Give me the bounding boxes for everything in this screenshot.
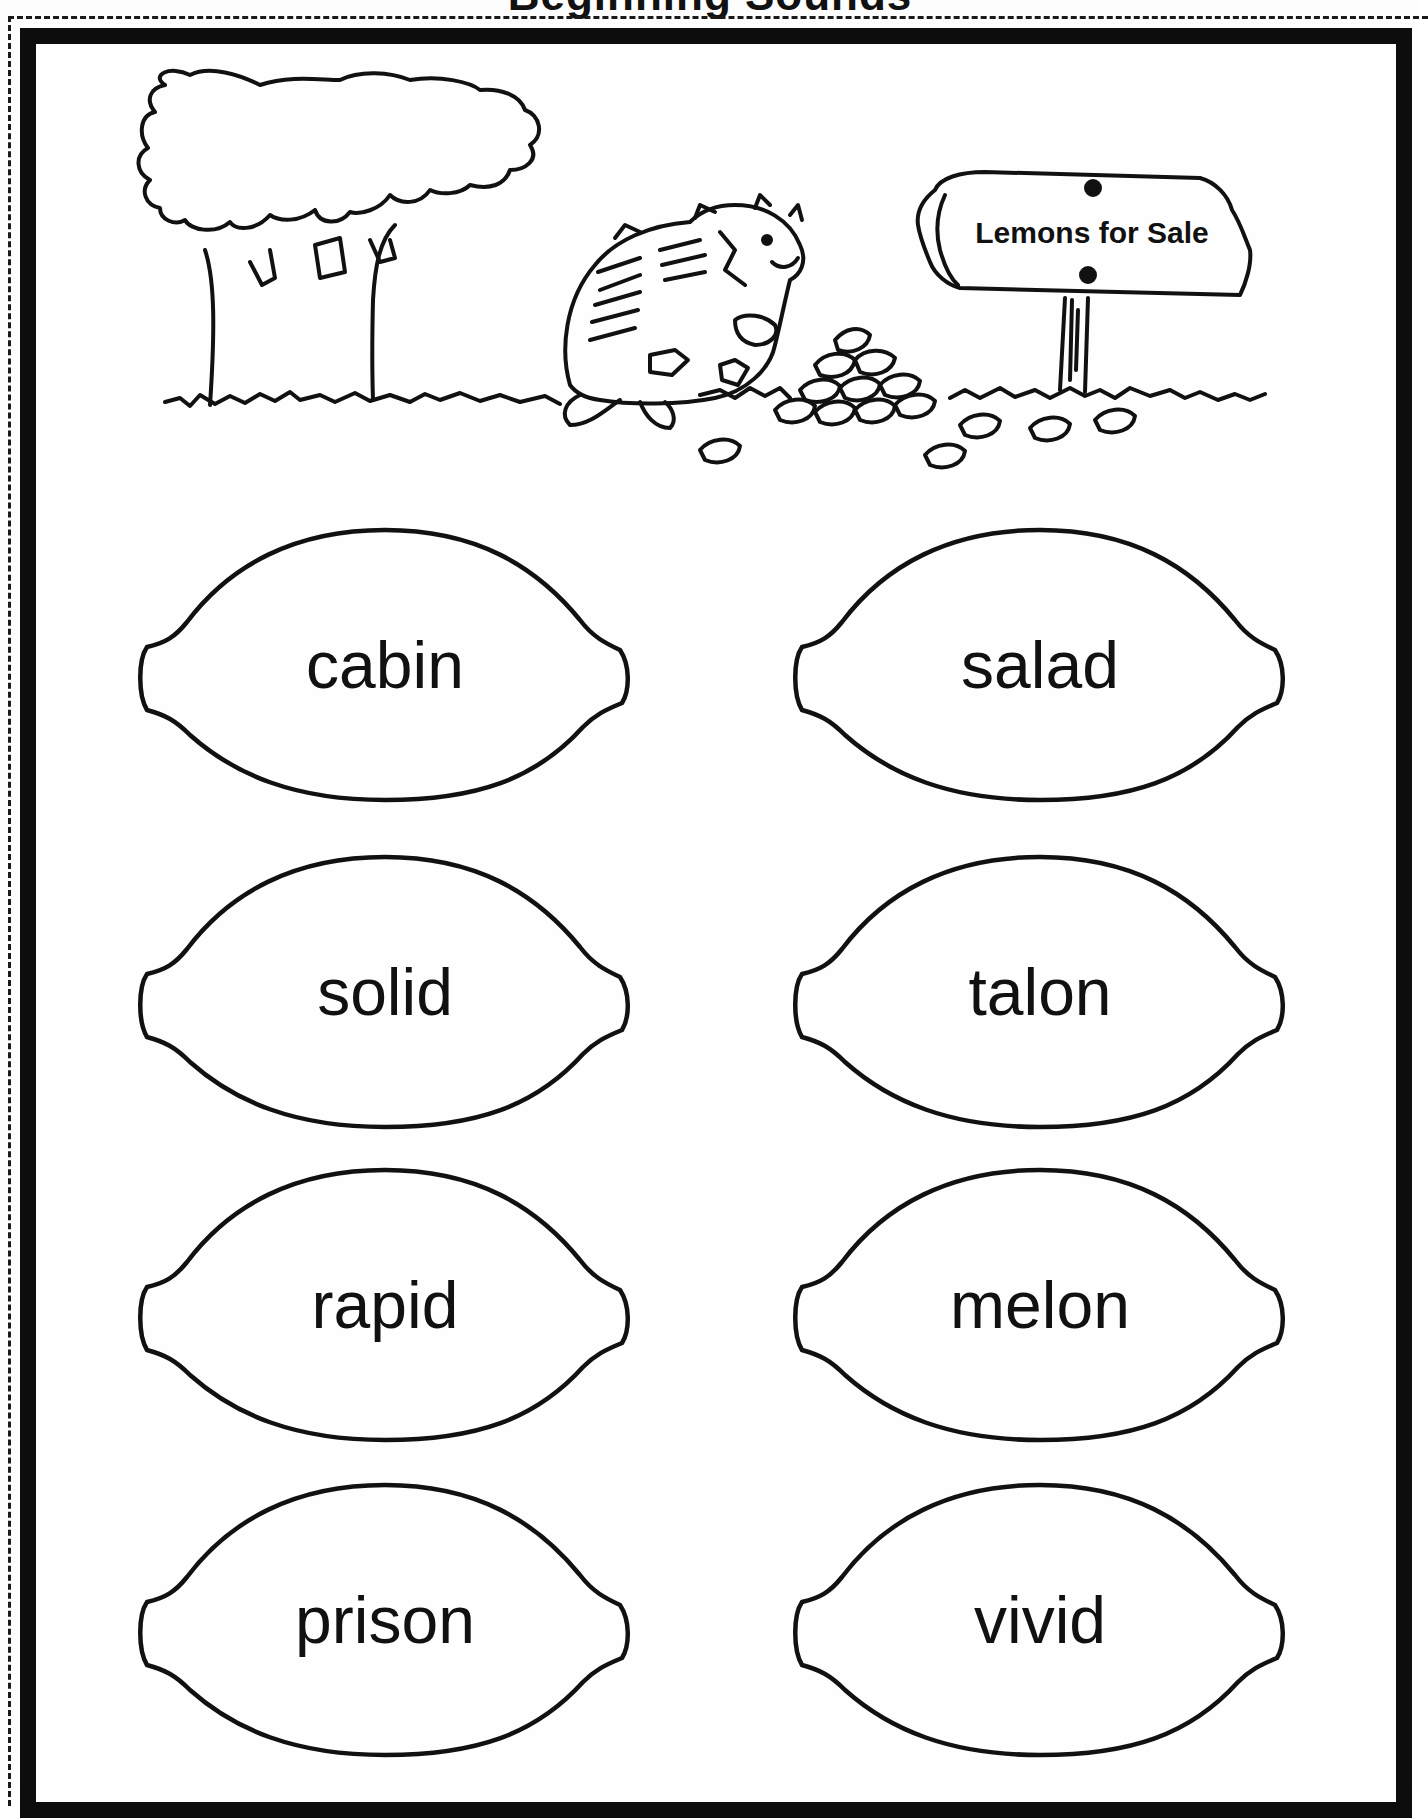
lemon-word: talon: [790, 852, 1290, 1132]
grass-line: [165, 392, 560, 406]
lemon-word: prison: [135, 1480, 635, 1760]
sign-icon: [918, 172, 1251, 392]
lemon-word: melon: [790, 1165, 1290, 1445]
lemon-word: solid: [135, 852, 635, 1132]
lemon-word: rapid: [135, 1165, 635, 1445]
lemon-card-prison: prison: [135, 1480, 635, 1760]
lemon-card-vivid: vivid: [790, 1480, 1290, 1760]
lemon-card-melon: melon: [790, 1165, 1290, 1445]
sign-text: Lemons for Sale: [975, 216, 1208, 249]
lemon-card-salad: salad: [790, 525, 1290, 805]
lemon-card-rapid: rapid: [135, 1165, 635, 1445]
lemon-card-cabin: cabin: [135, 525, 635, 805]
lemon-card-solid: solid: [135, 852, 635, 1132]
illustration-scene: Lemons for Sale: [0, 0, 1420, 500]
lemon-word: vivid: [790, 1480, 1290, 1760]
lemon-word: salad: [790, 525, 1290, 805]
tree-icon: [138, 71, 539, 405]
lemon-card-talon: talon: [790, 852, 1290, 1132]
lemon-word: cabin: [135, 525, 635, 805]
